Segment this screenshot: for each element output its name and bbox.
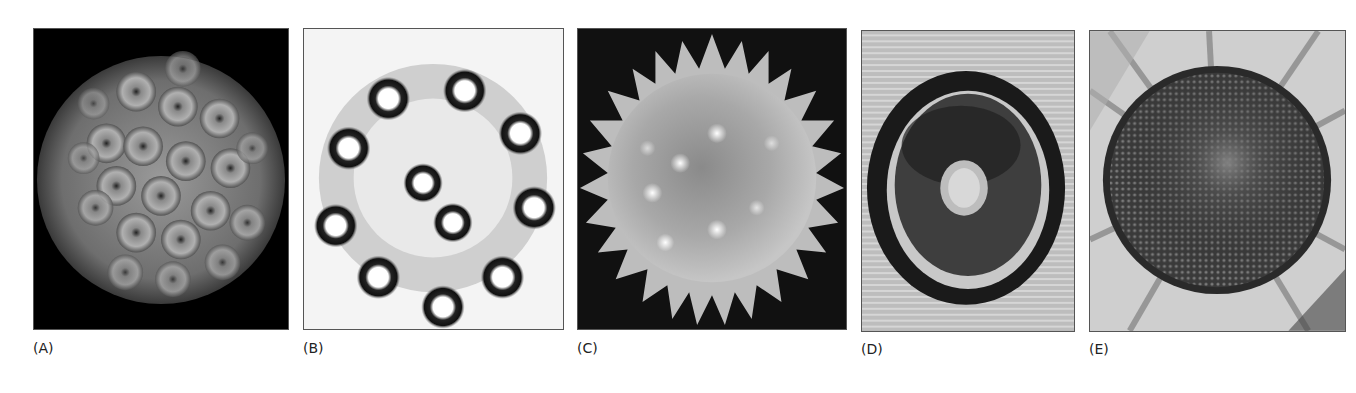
panel-c-label: (C) bbox=[577, 340, 598, 356]
concentric-ring-illustration bbox=[862, 31, 1074, 331]
panel-a-virus-image bbox=[33, 28, 289, 330]
panel-d-ring-image bbox=[861, 30, 1075, 332]
panel-c-pollen-image bbox=[577, 28, 847, 330]
panel-e-sunflower-image bbox=[1089, 30, 1346, 332]
virus-capsid-illustration bbox=[34, 29, 288, 329]
panel-a-label: (A) bbox=[33, 340, 54, 356]
pollen-grain-illustration bbox=[578, 29, 846, 329]
panel-d-label: (D) bbox=[861, 341, 883, 357]
panel-b-microtubule-image bbox=[303, 28, 564, 330]
panel-b-label: (B) bbox=[303, 340, 324, 356]
microtubule-illustration bbox=[304, 29, 563, 329]
panel-e-label: (E) bbox=[1089, 341, 1109, 357]
sunflower-illustration bbox=[1090, 31, 1345, 331]
